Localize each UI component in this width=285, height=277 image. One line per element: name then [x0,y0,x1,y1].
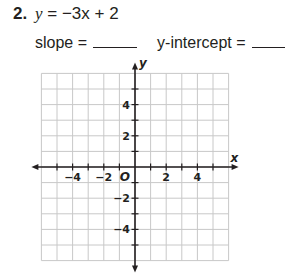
y-axis-down-arrow-icon [132,266,138,273]
origin-label: O [120,170,130,184]
x-tick-label: 2 [162,171,170,184]
y-tick-label: −2 [113,192,130,205]
y-axis-label: y [139,56,148,70]
y-axis-up-arrow-icon [132,62,138,69]
x-axis-left-arrow-icon [31,164,38,170]
x-axis-label: x [230,151,240,165]
y-tick-label: −4 [113,223,130,236]
coordinate-grid[interactable]: −4−22442−2−4Oxy [0,0,285,277]
x-tick-label: −4 [64,171,81,184]
x-tick-label: −2 [95,171,112,184]
y-tick-label: 2 [122,130,130,143]
y-tick-label: 4 [122,99,130,112]
axes [31,62,238,272]
x-tick-label: 4 [194,171,202,184]
